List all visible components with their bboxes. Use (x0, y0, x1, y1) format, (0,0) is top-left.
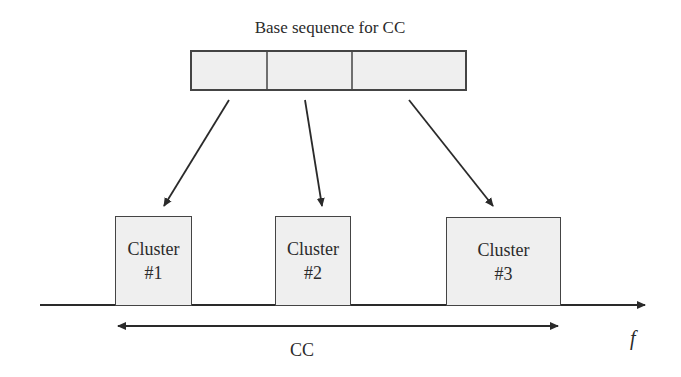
cluster-3-box: Cluster #3 (446, 217, 561, 306)
base-sequence-bar (191, 51, 466, 90)
arrow-to-cluster-3 (409, 100, 493, 206)
arrow-to-cluster-1 (164, 100, 229, 206)
cluster-3-label: Cluster (478, 238, 530, 262)
cluster-2-number: #2 (304, 261, 322, 285)
cluster-2-box: Cluster #2 (275, 216, 351, 306)
diagram-canvas (0, 0, 681, 377)
cluster-2-label: Cluster (287, 237, 339, 261)
cluster-3-number: #3 (495, 262, 513, 286)
cc-span-label: CC (290, 340, 314, 361)
cluster-1-label: Cluster (128, 237, 180, 261)
cluster-1-box: Cluster #1 (115, 216, 192, 306)
frequency-axis-label: f (630, 327, 636, 350)
base-sequence-title: Base sequence for CC (0, 18, 660, 38)
arrow-to-cluster-2 (305, 100, 322, 206)
cluster-1-number: #1 (145, 261, 163, 285)
